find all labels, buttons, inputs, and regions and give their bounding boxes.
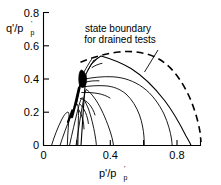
y-axis-ticks bbox=[44, 13, 50, 113]
y-axis-title-subscript: p bbox=[31, 29, 35, 37]
annotation-line-1: state boundary bbox=[85, 23, 151, 34]
stress-path-chart: 0.8 0.6 0.4 0.2 0 0 0.4 0.8 q'/p p ' p'/… bbox=[0, 0, 221, 185]
y-tick-label-0.4: 0.4 bbox=[24, 73, 39, 85]
annotation-line-2: for drained tests bbox=[84, 34, 156, 45]
esp-curve-1 bbox=[52, 112, 70, 146]
esp-apex-stub-4 bbox=[86, 81, 99, 82]
state-boundary-annotation: state boundary for drained tests bbox=[84, 23, 158, 72]
series-state-boundary-dashed bbox=[81, 52, 202, 142]
x-axis-title-prime: ' bbox=[124, 165, 125, 172]
esp-curve-6 bbox=[83, 77, 173, 146]
x-axis-title-main: p'/p bbox=[99, 167, 116, 179]
annotation-leader-line bbox=[145, 50, 159, 72]
esp-apex-stub-3 bbox=[92, 63, 102, 67]
esp-curve-5 bbox=[81, 56, 191, 146]
esp-curve-8-short bbox=[82, 92, 110, 98]
y-tick-label-0: 0 bbox=[33, 139, 39, 151]
y-tick-label-0.8: 0.8 bbox=[24, 7, 39, 19]
y-axis-title-prime: ' bbox=[31, 20, 32, 27]
x-tick-label-0.8: 0.8 bbox=[169, 149, 184, 161]
x-axis-title: p'/p p ' bbox=[99, 165, 128, 182]
x-axis-title-subscript: p bbox=[124, 174, 128, 182]
figure-container: 0.8 0.6 0.4 0.2 0 0 0.4 0.8 q'/p p ' p'/… bbox=[0, 0, 221, 185]
x-tick-label-0: 0 bbox=[40, 149, 46, 161]
y-axis-title-main: q'/p bbox=[6, 22, 23, 34]
x-tick-labels: 0 0.4 0.8 bbox=[40, 149, 184, 161]
y-axis-title: q'/p p ' bbox=[6, 20, 35, 37]
y-tick-label-0.6: 0.6 bbox=[24, 40, 39, 52]
x-tick-label-0.4: 0.4 bbox=[103, 149, 118, 161]
esp-curve-2 bbox=[60, 104, 78, 146]
esp-apex-stub-2 bbox=[88, 60, 94, 70]
series-effective-stress-paths bbox=[52, 56, 192, 146]
y-tick-label-0.2: 0.2 bbox=[24, 106, 39, 118]
